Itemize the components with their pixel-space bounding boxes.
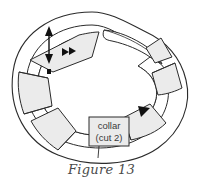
collar-label-line2: (cut 2) bbox=[96, 132, 123, 143]
collar-label-line1: collar bbox=[98, 120, 121, 131]
figure-container: collar (cut 2) Figure 13 bbox=[0, 0, 203, 191]
square-notch bbox=[47, 69, 51, 74]
figure-caption: Figure 13 bbox=[0, 162, 203, 177]
collar-label-box: collar (cut 2) bbox=[89, 117, 129, 146]
